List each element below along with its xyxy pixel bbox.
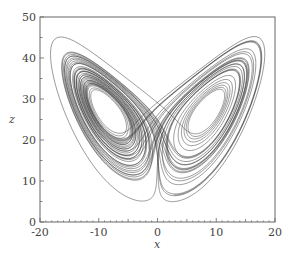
y-axis-tick-labels: 01020304050	[22, 11, 36, 229]
y-axis-ticks	[40, 17, 44, 222]
trajectory-line	[51, 37, 265, 202]
y-tick-label: 0	[29, 216, 36, 229]
y-tick-label: 30	[22, 93, 36, 106]
y-tick-label: 10	[22, 175, 36, 188]
x-tick-label: 10	[209, 226, 223, 239]
x-tick-label: -10	[90, 226, 108, 239]
trajectory-series	[51, 37, 265, 202]
x-tick-label: 20	[268, 226, 282, 239]
y-tick-label: 40	[22, 52, 36, 65]
x-axis-label: x	[154, 238, 161, 251]
y-tick-label: 20	[22, 134, 36, 147]
y-tick-label: 50	[22, 11, 36, 24]
lorenz-attractor-chart: -20-1001020 01020304050 x z	[0, 0, 294, 259]
y-axis-label: z	[8, 113, 15, 126]
x-axis-ticks	[40, 218, 275, 222]
